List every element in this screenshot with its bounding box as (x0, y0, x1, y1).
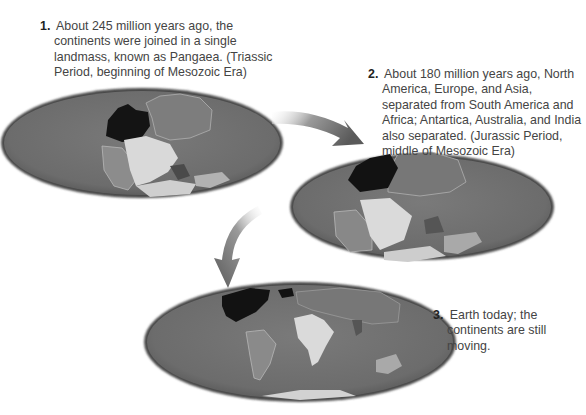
stage-3-text: Earth today; the continents are still mo… (447, 308, 546, 353)
arrow-stage2-to-stage3 (214, 206, 262, 288)
stage-1-text: About 245 million years ago, the contine… (54, 19, 273, 79)
globe-jurassic (290, 152, 554, 262)
globe-today (144, 282, 456, 402)
stage-1-number: 1. (40, 19, 50, 33)
globe-pangaea (1, 88, 283, 198)
stage-1-caption: 1. About 245 million years ago, the cont… (40, 19, 284, 81)
arrow-stage1-to-stage2 (272, 111, 364, 146)
eurasia-landmass (146, 94, 212, 140)
stage-2-caption: 2. About 180 million years ago, North Am… (368, 67, 586, 159)
stage-3-number: 3. (433, 308, 443, 322)
stage-3-caption: 3. Earth today; the continents are still… (433, 308, 567, 354)
stage-2-text: About 180 million years ago, North Ameri… (382, 67, 581, 158)
stage-2-number: 2. (368, 67, 378, 81)
